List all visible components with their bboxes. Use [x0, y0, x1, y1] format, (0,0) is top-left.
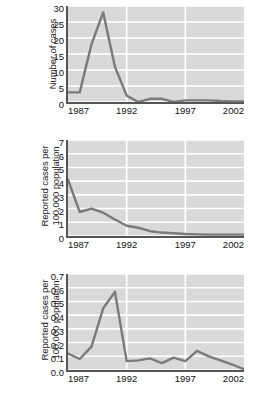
- data-line: [68, 292, 244, 369]
- y-tick-label: 0: [59, 99, 64, 110]
- gridlines: [68, 140, 244, 236]
- data-line: [68, 180, 244, 235]
- x-tick-label: 1992: [116, 373, 137, 384]
- x-tick-label: 1992: [116, 105, 137, 116]
- gridlines: [68, 6, 244, 102]
- x-tick-label: 1997: [175, 105, 196, 116]
- plot-svg: [68, 6, 244, 102]
- y-tick-label: 7: [59, 137, 64, 148]
- y-tick-label: 0.7: [51, 271, 64, 282]
- y-tick-label: 0.3: [51, 325, 64, 336]
- x-axis-tick-labels: 1987199219972002: [68, 239, 244, 253]
- gridlines: [68, 274, 244, 370]
- x-tick-label: 1987: [68, 373, 89, 384]
- x-tick-label: 2002: [223, 373, 244, 384]
- chart-panel-reported-cases-rate-07: Reported cases per 100,000 population 0.…: [0, 272, 267, 404]
- x-tick-label: 1997: [175, 239, 196, 250]
- y-tick-label: 1: [59, 219, 64, 230]
- y-tick-label: 0.6: [51, 284, 64, 295]
- y-tick-label: 0.5: [51, 298, 64, 309]
- plot-svg: [68, 274, 244, 370]
- plot-area: [68, 6, 244, 102]
- x-tick-label: 2002: [223, 239, 244, 250]
- x-tick-label: 2002: [223, 105, 244, 116]
- y-tick-label: 0.4: [51, 312, 64, 323]
- y-tick-label: 0.1: [51, 353, 64, 364]
- y-axis-tick-labels: 0.00.10.20.30.40.50.60.7: [32, 274, 64, 370]
- y-tick-label: 0.2: [51, 339, 64, 350]
- x-axis-line: [68, 236, 244, 238]
- y-tick-label: 3: [59, 191, 64, 202]
- y-tick-label: 5: [59, 83, 64, 94]
- chart-panel-reported-cases-rate-7: Reported cases per 100,000 population 01…: [0, 138, 267, 266]
- chart-panel-number-of-cases: Number of cases 051015202530 19871992199…: [0, 4, 267, 132]
- x-tick-label: 1997: [175, 373, 196, 384]
- y-tick-label: 0.0: [51, 367, 64, 378]
- x-axis-line: [68, 370, 244, 372]
- y-tick-label: 10: [53, 67, 64, 78]
- plot-area: [68, 274, 244, 370]
- y-tick-label: 30: [53, 3, 64, 14]
- y-axis-tick-labels: 01234567: [44, 140, 64, 236]
- y-tick-label: 5: [59, 164, 64, 175]
- x-axis-line: [68, 102, 244, 104]
- y-tick-label: 6: [59, 150, 64, 161]
- figure-three-line-charts: Number of cases 051015202530 19871992199…: [0, 0, 267, 408]
- plot-area: [68, 140, 244, 236]
- y-tick-label: 4: [59, 178, 64, 189]
- data-line: [68, 12, 244, 102]
- x-axis-tick-labels: 1987199219972002: [68, 105, 244, 119]
- y-tick-label: 0: [59, 233, 64, 244]
- y-axis-tick-labels: 051015202530: [40, 6, 64, 102]
- y-tick-label: 20: [53, 35, 64, 46]
- x-tick-label: 1987: [68, 105, 89, 116]
- plot-svg: [68, 140, 244, 236]
- x-tick-label: 1992: [116, 239, 137, 250]
- x-axis-tick-labels: 1987199219972002: [68, 373, 244, 387]
- y-tick-label: 2: [59, 205, 64, 216]
- y-tick-label: 15: [53, 51, 64, 62]
- y-tick-label: 25: [53, 19, 64, 30]
- x-tick-label: 1987: [68, 239, 89, 250]
